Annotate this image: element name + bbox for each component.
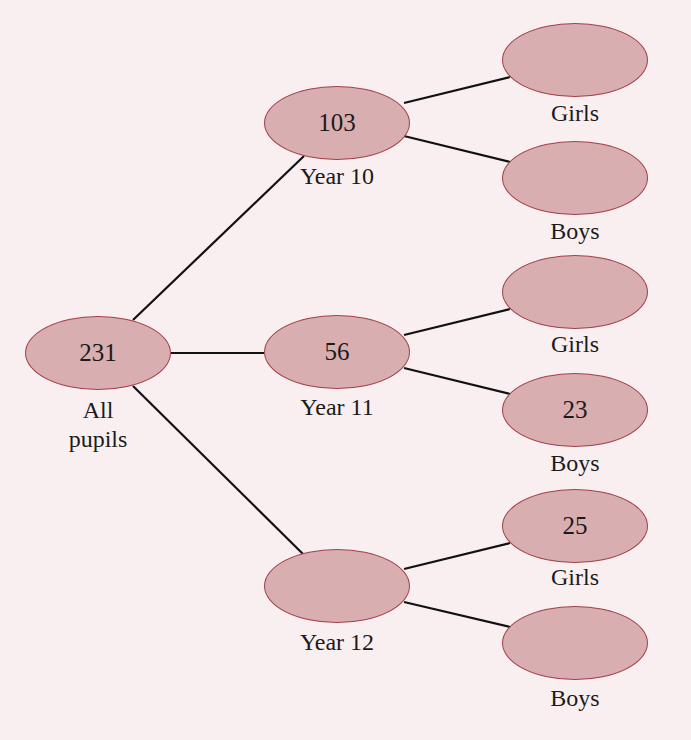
line-year10-boys (404, 136, 510, 162)
node-value: 25 (563, 512, 588, 540)
line-year12-girls (404, 543, 510, 569)
label-line: pupils (28, 425, 168, 454)
node-all-pupils: 231 (25, 316, 171, 390)
label-year12: Year 12 (267, 628, 407, 657)
node-year11-boys: 23 (502, 373, 648, 447)
label-year11-boys: Boys (505, 449, 645, 478)
label-all-pupils: All pupils (28, 396, 168, 454)
label-year12-boys: Boys (505, 684, 645, 713)
line-year10-girls (404, 77, 510, 103)
label-year10-girls: Girls (505, 99, 645, 128)
node-value: 231 (79, 339, 117, 367)
label-year10: Year 10 (267, 162, 407, 191)
line-year12-boys (404, 602, 510, 627)
node-value: 23 (563, 396, 588, 424)
node-year12 (264, 549, 410, 623)
label-year11: Year 11 (267, 393, 407, 422)
line-year11-boys (404, 368, 510, 394)
node-year12-boys (502, 606, 648, 680)
node-year10: 103 (264, 86, 410, 160)
label-line: All (28, 396, 168, 425)
node-year11: 56 (264, 315, 410, 389)
line-year11-girls (404, 309, 510, 335)
node-value: 103 (318, 109, 356, 137)
label-year12-girls: Girls (505, 563, 645, 592)
label-year11-girls: Girls (505, 330, 645, 359)
node-value: 56 (325, 338, 350, 366)
node-year10-girls (502, 23, 648, 97)
node-year11-girls (502, 255, 648, 329)
label-year10-boys: Boys (505, 217, 645, 246)
node-year10-boys (502, 141, 648, 215)
node-year12-girls: 25 (502, 489, 648, 563)
